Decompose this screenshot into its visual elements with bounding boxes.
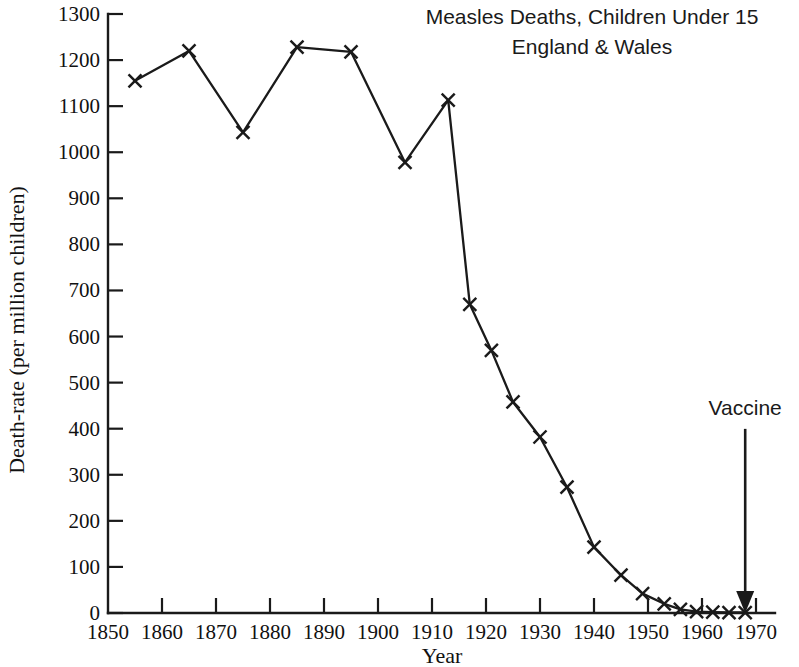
y-tick-label: 100 [69,555,101,579]
x-tick-label: 1880 [249,620,291,644]
y-tick-label: 800 [69,232,101,256]
y-tick-label: 300 [69,463,101,487]
x-tick-label: 1850 [87,620,129,644]
x-tick-label: 1950 [627,620,669,644]
annotation-label: Vaccine [709,396,782,419]
x-tick-label: 1870 [195,620,237,644]
x-axis-tick-labels: 1850186018701880189019001910192019301940… [87,620,777,644]
data-point-marker [561,481,574,494]
y-axis-tick-labels: 0100200300400500600700800900100011001200… [58,2,100,625]
x-tick-label: 1940 [573,620,615,644]
x-tick-label: 1900 [357,620,399,644]
chart-title: Measles Deaths, Children Under 15 [426,5,759,28]
data-point-marker [399,156,412,169]
series-markers [129,41,752,619]
data-point-marker [658,597,671,610]
annotation-arrow-head [736,591,754,613]
chart-subtitle: England & Wales [512,35,672,58]
data-point-marker [507,395,520,408]
y-tick-label: 1300 [58,2,100,26]
y-tick-label: 200 [69,509,101,533]
data-point-marker [183,44,196,57]
data-point-marker [615,569,628,582]
y-tick-label: 900 [69,186,101,210]
x-tick-label: 1930 [519,620,561,644]
chart-page: 0100200300400500600700800900100011001200… [0,0,799,667]
y-tick-label: 1000 [58,140,100,164]
x-axis-title: Year [422,643,463,667]
data-point-marker [534,430,547,443]
y-tick-label: 400 [69,417,101,441]
y-tick-label: 1100 [59,94,100,118]
x-tick-label: 1970 [735,620,777,644]
data-point-marker [636,587,649,600]
data-point-marker [485,344,498,357]
axis-spines [108,14,775,613]
y-axis-title: Death-rate (per million children) [4,186,29,474]
measles-death-rate-chart: 0100200300400500600700800900100011001200… [0,0,799,667]
data-point-marker [129,74,142,87]
x-tick-label: 1890 [303,620,345,644]
y-tick-label: 1200 [58,48,100,72]
annotations-group: Vaccine [709,396,782,613]
y-axis-ticks [108,14,123,613]
y-tick-label: 600 [69,325,101,349]
x-tick-label: 1910 [411,620,453,644]
y-tick-label: 500 [69,371,101,395]
series-line-measles-death-rate [135,47,745,612]
annotation-vaccine: Vaccine [709,396,782,613]
data-point-marker [237,126,250,139]
x-tick-label: 1860 [141,620,183,644]
x-tick-label: 1960 [681,620,723,644]
x-tick-label: 1920 [465,620,507,644]
y-tick-label: 700 [69,278,101,302]
data-series-group [129,41,752,619]
data-point-marker [588,541,601,554]
